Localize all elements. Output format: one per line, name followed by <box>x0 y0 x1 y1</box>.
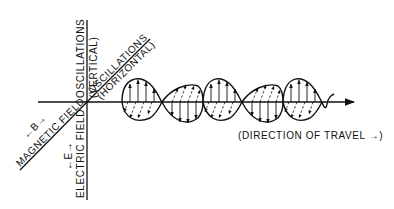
electric-field-symbol: ←E→ <box>63 142 74 170</box>
electric-field-label: ELECTRIC FIELD <box>75 109 86 198</box>
wave <box>122 79 334 123</box>
direction-of-travel-label: (DIRECTION OF TRAVEL →) <box>238 130 383 141</box>
em-wave-diagram: OSCILLATIONS (VERTICAL) ELECTRIC FIELD ←… <box>0 0 394 209</box>
vertical-top-label-1: OSCILLATIONS <box>75 19 86 98</box>
